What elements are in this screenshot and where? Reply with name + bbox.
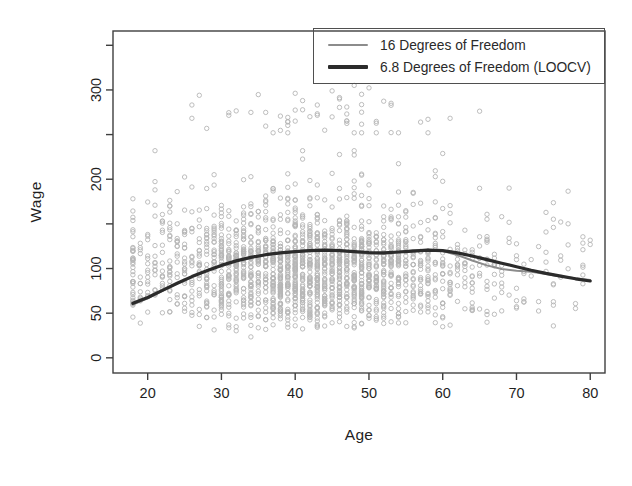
data-point <box>278 128 282 132</box>
data-point <box>359 224 363 228</box>
data-point <box>256 209 260 213</box>
x-tick-label: 70 <box>508 385 524 401</box>
data-point <box>485 279 489 283</box>
data-point <box>507 236 511 240</box>
data-point <box>300 108 304 112</box>
data-point <box>389 207 393 211</box>
data-point <box>300 98 304 102</box>
data-point <box>382 204 386 208</box>
data-point <box>293 182 297 186</box>
data-point <box>131 235 135 239</box>
data-point <box>507 220 511 224</box>
data-point <box>404 300 408 304</box>
data-point <box>153 214 157 218</box>
data-point <box>433 169 437 173</box>
data-point <box>441 179 445 183</box>
data-point <box>411 202 415 206</box>
data-point <box>404 309 408 313</box>
data-point <box>256 215 260 219</box>
data-point <box>566 267 570 271</box>
data-point <box>337 241 341 245</box>
data-point <box>308 115 312 119</box>
data-point <box>345 310 349 314</box>
data-point <box>256 326 260 330</box>
data-point <box>359 122 363 126</box>
data-point <box>293 108 297 112</box>
data-point <box>514 299 518 303</box>
data-point <box>389 234 393 238</box>
y-tick-label: 0 <box>88 354 104 362</box>
data-point <box>382 232 386 236</box>
x-tick-label: 30 <box>213 385 229 401</box>
data-point <box>536 244 540 248</box>
data-point <box>278 114 282 118</box>
data-point <box>573 301 577 305</box>
data-point <box>190 289 194 293</box>
data-point <box>212 173 216 177</box>
data-point <box>182 208 186 212</box>
data-point <box>441 151 445 155</box>
data-point <box>131 209 135 213</box>
data-point <box>286 318 290 322</box>
legend: 16 Degrees of Freedom 6.8 Degrees of Fre… <box>313 28 605 84</box>
data-point <box>293 216 297 220</box>
data-point <box>234 316 238 320</box>
data-point <box>264 110 268 114</box>
data-point <box>337 320 341 324</box>
data-point <box>175 189 179 193</box>
data-point <box>404 321 408 325</box>
data-point <box>146 262 150 266</box>
data-point <box>551 324 555 328</box>
data-point <box>271 231 275 235</box>
data-point <box>551 217 555 221</box>
data-point <box>219 269 223 273</box>
data-point <box>581 273 585 277</box>
data-point <box>433 306 437 310</box>
data-point <box>323 324 327 328</box>
data-point <box>507 240 511 244</box>
data-point <box>382 99 386 103</box>
data-point <box>337 186 341 190</box>
data-point <box>293 324 297 328</box>
data-point <box>249 110 253 114</box>
data-point <box>359 92 363 96</box>
data-point <box>227 214 231 218</box>
data-point <box>522 262 526 266</box>
data-point <box>271 225 275 229</box>
data-point <box>566 243 570 247</box>
data-point <box>330 89 334 93</box>
data-point <box>182 309 186 313</box>
data-point <box>345 324 349 328</box>
data-point <box>389 281 393 285</box>
data-point <box>300 157 304 161</box>
y-tick-label: 200 <box>88 167 104 191</box>
data-point <box>426 117 430 121</box>
data-point <box>205 262 209 266</box>
data-point <box>367 235 371 239</box>
legend-label-16df: 16 Degrees of Freedom <box>380 38 526 53</box>
data-point <box>352 192 356 196</box>
data-point <box>278 196 282 200</box>
data-point <box>470 301 474 305</box>
data-point <box>396 215 400 219</box>
data-point <box>529 274 533 278</box>
data-point <box>227 326 231 330</box>
data-point <box>337 197 341 201</box>
data-point <box>359 219 363 223</box>
data-point <box>227 209 231 213</box>
data-point <box>249 323 253 327</box>
y-tick-label: 50 <box>88 305 104 321</box>
data-point <box>256 308 260 312</box>
data-point <box>396 190 400 194</box>
data-point <box>330 115 334 119</box>
data-point <box>404 215 408 219</box>
data-point <box>138 290 142 294</box>
data-point <box>330 205 334 209</box>
data-point <box>477 307 481 311</box>
data-point <box>190 310 194 314</box>
data-point <box>286 325 290 329</box>
data-point <box>308 178 312 182</box>
data-point <box>190 185 194 189</box>
data-point <box>249 175 253 179</box>
data-point <box>441 287 445 291</box>
